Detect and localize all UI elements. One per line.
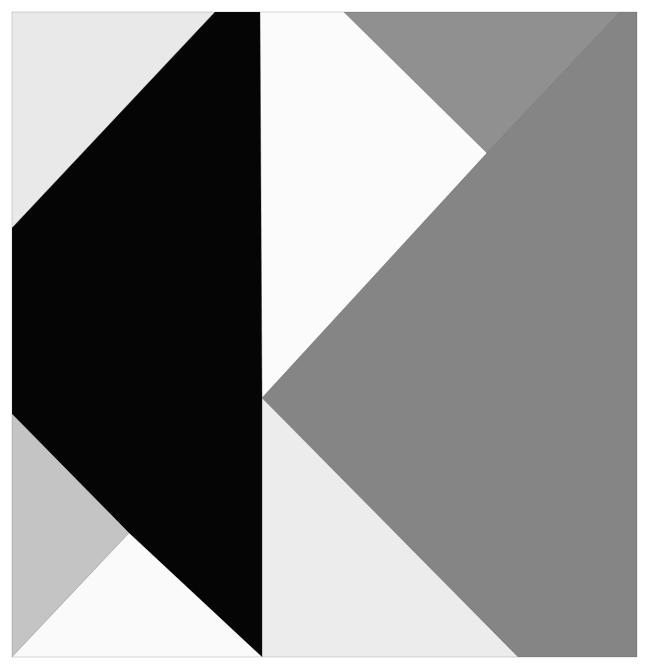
geometric-abstract-painting xyxy=(0,0,645,668)
